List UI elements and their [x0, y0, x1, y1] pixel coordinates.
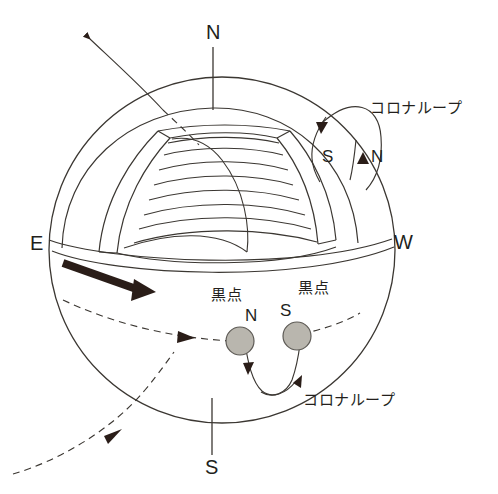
- label-pole-south: S: [205, 457, 218, 477]
- label-sunspot-left-polarity: N: [245, 307, 257, 324]
- label-pole-north: N: [206, 22, 220, 42]
- label-sunspot-right: 黒点: [298, 281, 329, 296]
- figure-canvas: N S E W コロナループ コロナループ 黒点 黒点 N S S N: [0, 0, 498, 494]
- label-sunspot-left: 黒点: [211, 288, 242, 303]
- solar-magnetic-field-diagram: [0, 0, 498, 494]
- arcade-top-edge: [158, 125, 290, 138]
- open-field-line-northwest: [90, 39, 199, 145]
- open-field-line-equatorial: [63, 300, 230, 341]
- coronal-loop-sunspots: [245, 344, 300, 395]
- arcade-field-lines: [134, 137, 317, 243]
- equatorial-field-arrowhead: [177, 331, 195, 343]
- label-loop-foot-north: N: [371, 148, 383, 165]
- label-coronal-loop-top: コロナループ: [370, 101, 462, 116]
- arcade-left-leg: [99, 131, 170, 253]
- sunspot-left: [226, 327, 254, 355]
- southwest-field-arrowhead: [104, 429, 122, 444]
- solar-disk: [49, 77, 395, 423]
- prominence-cavity: [124, 138, 248, 252]
- label-coronal-loop-bottom: コロナループ: [303, 393, 395, 408]
- label-limb-east: E: [30, 233, 43, 253]
- label-sunspot-right-polarity: S: [280, 302, 291, 319]
- equator-band: [49, 239, 394, 272]
- arcade-outer-shell: [62, 108, 358, 248]
- label-limb-west: W: [394, 232, 413, 252]
- open-field-line-southwest: [13, 352, 174, 474]
- label-loop-foot-south: S: [322, 148, 333, 165]
- sunspot-right: [283, 322, 311, 350]
